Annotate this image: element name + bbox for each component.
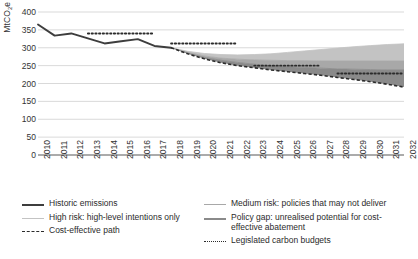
legend-item-label: Policy gap: unrealised potential for cos… [231,212,409,233]
chart-legend: Historic emissionsHigh risk: high-level … [0,198,409,259]
x-axis-tick: 2030 [375,140,385,159]
legend-swatch-dotted [204,241,226,242]
x-axis-tick: 2021 [225,140,235,159]
x-axis-tick: 2031 [391,140,401,159]
legend-marker-icon [204,236,226,246]
x-axis-tick: 2025 [292,140,302,159]
x-axis-tick: 2029 [358,140,368,159]
legend-item[interactable]: Historic emissions [22,198,207,209]
x-axis-tick: 2020 [208,140,218,159]
x-axis-tick: 2011 [59,141,69,159]
x-axis-tick: 2026 [308,140,318,159]
x-axis-tick: 2015 [125,140,135,159]
x-axis-tick: 2022 [242,140,252,159]
x-axis-tick: 2010 [42,140,52,159]
x-axis-tick: 2016 [142,140,152,159]
x-axis-tick: 2017 [158,140,168,159]
legend-item-label: High risk: high-level intentions only [49,212,180,223]
x-axis-tick: 2019 [192,140,202,159]
legend-item-label: Medium risk: policies that may not deliv… [231,198,386,209]
x-axis-tick: 2014 [109,140,119,159]
legend-swatch-dashed [22,231,44,232]
legend-swatch-solid [204,204,226,205]
legend-marker-icon [204,213,226,223]
x-axis-tick: 2027 [325,140,335,159]
legend-item[interactable]: Cost-effective path [22,225,207,236]
legend-swatch-solid [204,218,226,220]
x-axis-tick: 2018 [175,140,185,159]
legend-column-right: Medium risk: policies that may not deliv… [204,198,409,249]
legend-marker-icon [204,199,226,209]
x-axis-tick: 2023 [258,140,268,159]
legend-marker-icon [22,199,44,209]
x-axis-tick: 2028 [341,140,351,159]
x-axis-tick: 2024 [275,140,285,159]
x-axis-tick: 2032 [408,140,418,159]
legend-item-label: Cost-effective path [49,225,120,236]
legend-column-left: Historic emissionsHigh risk: high-level … [22,198,207,239]
legend-item[interactable]: Legislated carbon budgets [204,235,409,246]
legend-item[interactable]: Policy gap: unrealised potential for cos… [204,212,409,233]
legend-item-label: Legislated carbon budgets [231,235,331,246]
legend-item[interactable]: High risk: high-level intentions only [22,212,207,223]
x-axis-tick: 2013 [92,140,102,159]
x-axis-tick: 2012 [75,140,85,159]
legend-item-label: Historic emissions [49,198,118,209]
legend-marker-icon [22,213,44,223]
legend-swatch-solid [22,204,44,206]
legend-item[interactable]: Medium risk: policies that may not deliv… [204,198,409,209]
legend-marker-icon [22,226,44,236]
legend-swatch-solid [22,218,44,219]
